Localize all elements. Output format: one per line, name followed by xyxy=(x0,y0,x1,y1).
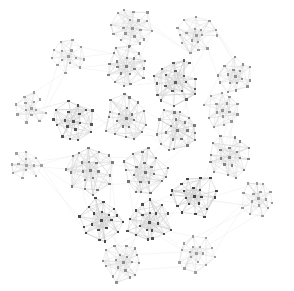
graph-node xyxy=(83,58,85,60)
graph-node xyxy=(125,245,127,247)
graph-node xyxy=(116,214,118,216)
graph-edge xyxy=(243,183,248,192)
graph-node xyxy=(132,153,134,155)
graph-node xyxy=(165,176,167,178)
graph-edge xyxy=(54,110,56,120)
graph-edge xyxy=(211,93,222,96)
graph-edge xyxy=(210,21,240,71)
graph-node xyxy=(247,182,249,184)
graph-node xyxy=(175,118,177,120)
graph-node xyxy=(259,191,261,193)
graph-node xyxy=(217,74,219,76)
graph-node xyxy=(192,246,194,248)
graph-edge xyxy=(184,17,196,20)
graph-edge xyxy=(173,139,181,140)
graph-node xyxy=(35,157,37,159)
graph-node xyxy=(33,164,35,166)
graph-node xyxy=(221,92,223,94)
graph-node xyxy=(125,65,128,68)
graph-node xyxy=(143,162,145,164)
graph-edge xyxy=(104,202,114,208)
graph-node xyxy=(79,66,81,68)
graph-node xyxy=(168,149,170,151)
graph-node xyxy=(33,91,35,93)
graph-edge xyxy=(182,213,195,215)
graph-node xyxy=(39,98,41,100)
graph-node xyxy=(183,190,185,192)
graph-node xyxy=(127,180,129,182)
graph-edge xyxy=(220,83,228,92)
graph-node xyxy=(116,120,118,122)
graph-node xyxy=(181,249,183,251)
graph-node xyxy=(70,49,72,51)
graph-node xyxy=(135,166,137,168)
graph-node xyxy=(100,219,103,222)
graph-edge xyxy=(235,57,243,65)
graph-edge xyxy=(174,94,195,106)
graph-node xyxy=(228,111,230,113)
graph-node xyxy=(84,179,86,181)
graph-node xyxy=(153,173,155,175)
graph-node xyxy=(110,24,112,26)
graph-node xyxy=(115,47,117,49)
graph-node xyxy=(206,47,208,49)
graph-node xyxy=(205,237,207,239)
graph-node xyxy=(136,254,138,256)
graph-node xyxy=(247,158,249,160)
graph-node xyxy=(105,265,107,267)
graph-node xyxy=(90,123,92,125)
graph-edge xyxy=(36,158,86,233)
graph-node xyxy=(131,261,133,263)
graph-edge xyxy=(210,178,216,191)
graph-node xyxy=(180,183,182,185)
graph-edge xyxy=(179,244,183,263)
graph-node xyxy=(75,57,77,59)
graph-edge xyxy=(160,113,175,120)
graph-node xyxy=(148,221,151,224)
graph-edge xyxy=(148,148,166,177)
graph-node xyxy=(147,147,149,149)
graph-node xyxy=(45,112,47,114)
graph-node xyxy=(249,66,251,68)
graph-node xyxy=(133,57,135,59)
graph-node xyxy=(105,130,107,132)
graph-node xyxy=(64,119,66,121)
graph-node xyxy=(156,82,158,84)
graph-edge xyxy=(161,144,169,150)
graph-node xyxy=(195,252,198,255)
graph-node xyxy=(88,161,90,163)
graph-node xyxy=(215,29,217,31)
graph-node xyxy=(123,160,125,162)
graph-edge xyxy=(244,159,248,170)
graph-node xyxy=(153,75,155,77)
graph-node xyxy=(89,169,92,172)
graph-edge xyxy=(230,97,238,104)
graph-node xyxy=(125,117,128,120)
graph-node xyxy=(203,216,205,218)
graph-node xyxy=(212,142,214,144)
graph-node xyxy=(88,206,90,208)
graph-node xyxy=(108,116,110,118)
graph-node xyxy=(223,124,225,126)
graph-node xyxy=(176,129,179,132)
graph-node xyxy=(161,180,163,182)
graph-node xyxy=(108,214,110,216)
graph-node xyxy=(227,91,229,93)
graph-edge xyxy=(114,209,123,222)
graph-node xyxy=(181,42,183,44)
graph-edge xyxy=(162,168,168,181)
graph-node xyxy=(144,60,146,62)
edge-layer xyxy=(12,10,272,283)
graph-edge xyxy=(162,205,171,230)
graph-edge xyxy=(184,268,195,272)
graph-edge xyxy=(85,189,93,195)
graph-edge xyxy=(81,47,84,59)
graph-node xyxy=(109,111,111,113)
graph-node xyxy=(112,33,114,35)
graph-edge xyxy=(16,97,24,105)
graph-edge xyxy=(116,275,135,283)
graph-node xyxy=(102,260,104,262)
graph-node xyxy=(197,261,199,263)
graph-node xyxy=(71,185,73,187)
graph-edge xyxy=(56,101,69,109)
